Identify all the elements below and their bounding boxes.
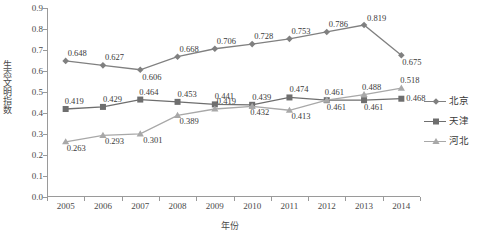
legend-marker-icon — [431, 98, 441, 108]
value-label: 0.728 — [254, 32, 273, 41]
value-label: 0.439 — [252, 93, 271, 102]
data-point-marker — [100, 104, 106, 110]
data-point-marker — [323, 29, 330, 36]
value-label: 0.786 — [329, 20, 348, 29]
value-label: 0.468 — [406, 94, 425, 103]
value-label: 0.706 — [217, 37, 236, 46]
value-label: 0.606 — [142, 73, 161, 82]
value-label: 0.432 — [250, 108, 269, 117]
data-point-marker — [175, 99, 181, 105]
value-label: 0.263 — [67, 144, 86, 153]
data-point-marker — [63, 106, 69, 112]
value-label: 0.461 — [325, 88, 344, 97]
value-label: 0.453 — [178, 90, 197, 99]
value-label: 0.648 — [68, 49, 87, 58]
chart-legend: 北京天津河北 — [424, 96, 469, 146]
data-point-marker — [137, 97, 143, 103]
data-point-marker — [433, 119, 439, 125]
legend-item-河北[interactable]: 河北 — [424, 136, 469, 146]
value-label: 0.293 — [105, 137, 124, 146]
data-point-marker — [286, 36, 293, 43]
value-label: 0.419 — [65, 97, 84, 106]
legend-swatch — [424, 136, 446, 146]
value-label: 0.419 — [217, 97, 236, 106]
data-point-marker — [286, 94, 292, 100]
series-0 — [62, 22, 404, 73]
series-line — [66, 25, 402, 70]
legend-label: 天津 — [449, 116, 469, 126]
legend-item-北京[interactable]: 北京 — [424, 96, 469, 106]
value-label: 0.461 — [327, 103, 346, 112]
data-point-marker — [174, 53, 181, 60]
x-axis-title: 年份 — [0, 219, 460, 232]
value-label: 0.461 — [364, 103, 383, 112]
value-label: 0.301 — [143, 136, 162, 145]
data-point-marker — [398, 96, 404, 102]
legend-label: 河北 — [449, 136, 469, 146]
value-label: 0.389 — [180, 117, 199, 126]
data-point-marker — [100, 62, 107, 69]
value-label: 0.753 — [291, 27, 310, 36]
data-point-marker — [433, 98, 440, 105]
value-label: 0.413 — [291, 112, 310, 121]
value-label: 0.429 — [103, 95, 122, 104]
data-point-marker — [249, 41, 256, 48]
legend-swatch — [424, 116, 446, 126]
value-label: 0.627 — [105, 53, 124, 62]
value-label: 0.488 — [362, 83, 381, 92]
data-point-marker — [212, 45, 219, 52]
legend-label: 北京 — [449, 96, 469, 106]
data-point-marker — [398, 85, 405, 91]
value-label: 0.668 — [180, 45, 199, 54]
value-label: 0.464 — [139, 88, 158, 97]
value-label: 0.675 — [402, 58, 421, 67]
value-label: 0.474 — [289, 85, 308, 94]
value-label: 0.518 — [400, 76, 419, 85]
legend-marker-icon — [431, 118, 441, 128]
data-point-marker — [432, 138, 439, 144]
data-point-marker — [62, 58, 69, 65]
legend-marker-icon — [431, 138, 441, 148]
legend-item-天津[interactable]: 天津 — [424, 116, 469, 126]
value-label: 0.819 — [367, 14, 386, 23]
legend-swatch — [424, 96, 446, 106]
line-chart: 生态文明指数 0.00.10.20.30.40.50.60.70.80.9 20… — [0, 0, 498, 251]
